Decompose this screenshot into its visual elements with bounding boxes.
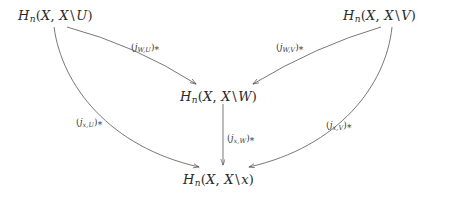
node-center-close: ) xyxy=(252,89,257,104)
edge-label-v-to-x-sub: x,V xyxy=(333,124,344,132)
edge-label-v-to-w-sub: W,V xyxy=(283,46,296,54)
edge-u-to-w xyxy=(67,27,196,84)
node-bottom: Hn(X, X\x) xyxy=(183,172,254,188)
node-bottom-comma: , xyxy=(215,172,219,187)
node-top-right-H: H xyxy=(343,8,355,23)
edge-label-v-to-w-star: * xyxy=(299,45,304,55)
edge-label-v-to-x: (jx,V)* xyxy=(326,120,351,133)
node-top-right-space2: X xyxy=(384,8,393,23)
edge-label-u-to-w: (jW,U)* xyxy=(131,42,159,55)
edge-label-u-to-w-star: * xyxy=(155,45,160,55)
node-center-H: H xyxy=(180,89,192,104)
node-top-left-close: ) xyxy=(87,8,92,23)
edge-label-v-to-x-star: * xyxy=(347,123,352,133)
node-top-left-subspace: U xyxy=(76,8,87,23)
node-top-right-close: ) xyxy=(411,8,416,23)
edge-label-u-to-w-sub: W,U xyxy=(138,46,151,54)
edge-v-to-x xyxy=(249,27,392,167)
node-center-subspace: W xyxy=(238,89,252,104)
node-bottom-H: H xyxy=(183,172,195,187)
node-top-left-space2: X xyxy=(59,8,68,23)
edge-label-w-to-x-star: * xyxy=(250,136,255,146)
node-center-space2: X xyxy=(221,89,230,104)
edge-u-to-x xyxy=(54,27,199,167)
edge-label-w-to-x-sub: x,W xyxy=(234,137,247,145)
commutative-diagram: Hn(X, X\U) Hn(X, X\V) Hn(X, X\W) Hn(X, X… xyxy=(0,0,449,198)
node-center-comma: , xyxy=(212,89,216,104)
edge-v-to-w xyxy=(253,27,381,84)
edge-label-v-to-w: (jW,V)* xyxy=(276,42,303,55)
node-bottom-space2: X xyxy=(224,172,233,187)
node-bottom-subspace: x xyxy=(241,172,249,187)
node-top-right-subspace: V xyxy=(401,8,411,23)
node-center: Hn(X, X\W) xyxy=(180,89,257,105)
node-top-left: Hn(X, X\U) xyxy=(18,8,93,24)
edge-label-u-to-x: (jx,U)* xyxy=(76,117,102,130)
node-top-left-comma: , xyxy=(50,8,54,23)
node-top-right: Hn(X, X\V) xyxy=(343,8,416,24)
node-bottom-close: ) xyxy=(249,172,254,187)
edge-label-u-to-x-sub: x,U xyxy=(83,121,95,129)
edge-label-u-to-x-star: * xyxy=(98,120,103,130)
node-top-left-H: H xyxy=(18,8,30,23)
node-top-right-comma: , xyxy=(375,8,379,23)
edge-label-w-to-x: (jx,W)* xyxy=(227,133,254,146)
